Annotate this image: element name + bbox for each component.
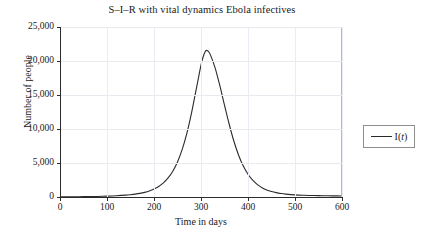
- plot-area: [60, 27, 342, 197]
- x-axis-tick-label: 300: [181, 202, 221, 212]
- gridline-vertical: [342, 27, 343, 197]
- y-axis-label: Number of people: [22, 17, 33, 167]
- gridline-vertical: [107, 27, 108, 197]
- y-axis-tick-label: 0: [0, 191, 54, 201]
- x-axis-tick-label: 500: [275, 202, 315, 212]
- legend-line-swatch: [371, 136, 392, 137]
- x-axis-tick: [154, 198, 155, 201]
- y-axis-tick: [57, 61, 60, 62]
- y-axis-tick: [57, 27, 60, 28]
- y-axis-line: [60, 27, 61, 198]
- x-axis-tick-label: 0: [40, 202, 80, 212]
- x-axis-tick: [295, 198, 296, 201]
- gridline-vertical: [201, 27, 202, 197]
- x-axis-tick: [201, 198, 202, 201]
- y-axis-tick: [57, 197, 60, 198]
- chart-figure: S–I–R with vital dynamics Ebola infectiv…: [0, 0, 426, 238]
- y-axis-tick: [57, 129, 60, 130]
- gridline-vertical: [295, 27, 296, 197]
- legend-label-it: I(t): [395, 131, 408, 142]
- x-axis-tick-label: 100: [87, 202, 127, 212]
- y-axis-tick: [57, 163, 60, 164]
- x-axis-tick: [60, 198, 61, 201]
- x-axis-tick-label: 400: [228, 202, 268, 212]
- chart-title: S–I–R with vital dynamics Ebola infectiv…: [0, 4, 404, 15]
- x-axis-tick: [248, 198, 249, 201]
- gridline-vertical: [248, 27, 249, 197]
- x-axis-tick: [342, 198, 343, 201]
- gridline-vertical: [154, 27, 155, 197]
- x-axis-tick-label: 600: [322, 202, 362, 212]
- x-axis-tick-label: 200: [134, 202, 174, 212]
- x-axis-label: Time in days: [60, 216, 342, 227]
- y-axis-tick: [57, 95, 60, 96]
- legend-box: I(t): [363, 125, 415, 148]
- x-axis-tick: [107, 198, 108, 201]
